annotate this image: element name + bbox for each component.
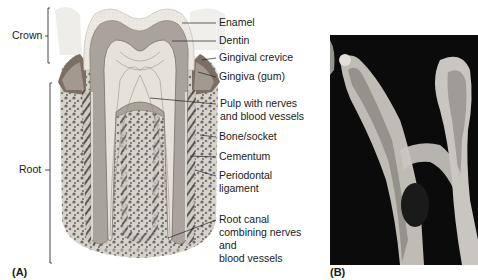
label-gingiva: Gingiva (gum) [219,70,285,83]
label-root-canal-line-3: and [219,239,301,252]
label-root-canal-line-1: Root canal [219,213,301,226]
label-pulp-line-2: and blood vessels [220,110,304,123]
radiograph-panel [330,35,478,265]
label-periodontal-line-1: Periodontal [219,169,272,182]
label-periodontal-line-2: ligament [219,182,272,195]
crown-label: Crown [12,29,42,41]
label-gingival-crevice: Gingival crevice [219,51,293,64]
label-cementum: Cementum [219,150,270,163]
label-root-canal-line-4: blood vessels [219,252,301,265]
label-root-canal-line-2: combining nerves [219,226,301,239]
label-pulp: Pulp with nerves and blood vessels [220,97,304,123]
label-periodontal-ligament: Periodontal ligament [219,169,272,195]
label-enamel: Enamel [219,16,255,29]
panel-a-tag: (A) [12,266,27,278]
label-dentin: Dentin [219,34,249,47]
root-label: Root [19,163,41,175]
label-bone-socket: Bone/socket [219,130,277,143]
label-pulp-line-1: Pulp with nerves [220,97,304,110]
panel-b-tag: (B) [330,266,345,278]
label-root-canal: Root canal combining nerves and blood ve… [219,213,301,265]
